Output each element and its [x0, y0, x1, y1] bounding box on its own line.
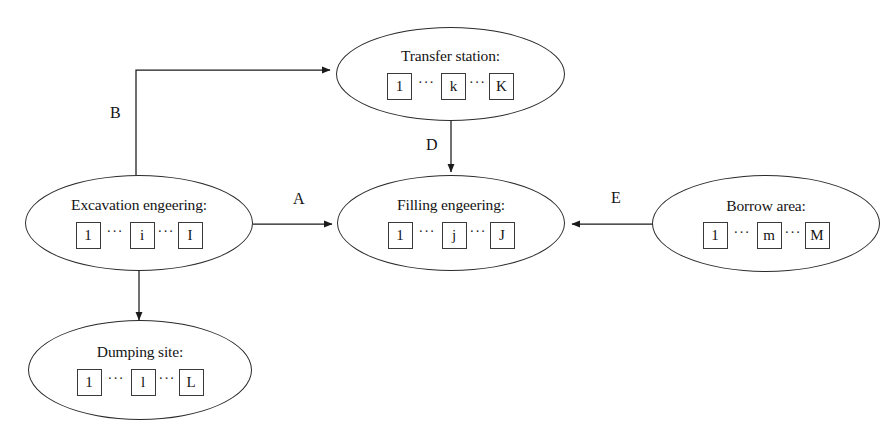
- index-box-borrow-m[interactable]: m: [757, 222, 782, 249]
- index-box-excavation-i[interactable]: i: [130, 222, 155, 249]
- index-ellipsis-transfer-right: ···: [466, 76, 489, 90]
- node-filling-engeering[interactable]: Filling engeering: 1 ··· j ··· J: [337, 175, 565, 271]
- edge-label-A: A: [293, 191, 305, 207]
- node-borrow-area[interactable]: Borrow area: 1 ··· m ··· M: [652, 175, 880, 272]
- index-ellipsis-dumping-right: ···: [156, 372, 179, 386]
- edge-label-B: B: [110, 105, 121, 121]
- index-box-dumping-L[interactable]: L: [179, 369, 204, 396]
- node-title-dumping-site: Dumping site:: [97, 344, 183, 360]
- index-row-transfer-station: 1 ··· k ··· K: [387, 73, 514, 100]
- node-title-excavation-engeering: Excavation engeering:: [71, 197, 207, 213]
- index-box-borrow-1[interactable]: 1: [703, 222, 728, 249]
- index-box-transfer-1[interactable]: 1: [387, 73, 412, 100]
- node-title-borrow-area: Borrow area:: [726, 198, 806, 214]
- index-box-transfer-K[interactable]: K: [489, 73, 514, 100]
- index-row-excavation-engeering: 1 ··· i ··· I: [76, 222, 203, 249]
- diagram-canvas: Transfer station: 1 ··· k ··· K Excavati…: [0, 0, 894, 443]
- edge-path-excavation-to-transfer: [136, 70, 330, 175]
- index-box-dumping-1[interactable]: 1: [77, 369, 102, 396]
- index-ellipsis-dumping-left: ···: [102, 372, 131, 386]
- edge-label-E: E: [611, 190, 621, 206]
- node-excavation-engeering[interactable]: Excavation engeering: 1 ··· i ··· I: [25, 175, 253, 271]
- node-transfer-station[interactable]: Transfer station: 1 ··· k ··· K: [336, 27, 565, 121]
- index-box-filling-J[interactable]: J: [490, 222, 515, 249]
- index-row-filling-engeering: 1 ··· j ··· J: [388, 222, 515, 249]
- index-ellipsis-excavation-right: ···: [155, 225, 178, 239]
- node-title-filling-engeering: Filling engeering:: [397, 197, 505, 213]
- index-ellipsis-transfer-left: ···: [412, 76, 441, 90]
- index-box-dumping-l[interactable]: l: [131, 369, 156, 396]
- edge-label-D: D: [426, 137, 438, 153]
- index-ellipsis-excavation-left: ···: [101, 225, 130, 239]
- index-box-excavation-I[interactable]: I: [178, 222, 203, 249]
- index-ellipsis-filling-left: ···: [413, 225, 442, 239]
- index-box-excavation-1[interactable]: 1: [76, 222, 101, 249]
- index-box-filling-1[interactable]: 1: [388, 222, 413, 249]
- index-ellipsis-borrow-left: ···: [728, 226, 757, 240]
- index-row-borrow-area: 1 ··· m ··· M: [703, 222, 830, 249]
- index-box-transfer-k[interactable]: k: [441, 73, 466, 100]
- node-title-transfer-station: Transfer station:: [401, 48, 500, 64]
- node-dumping-site[interactable]: Dumping site: 1 ··· l ··· L: [28, 320, 252, 420]
- index-ellipsis-borrow-right: ···: [782, 226, 805, 240]
- index-ellipsis-filling-right: ···: [467, 225, 490, 239]
- index-row-dumping-site: 1 ··· l ··· L: [77, 369, 204, 396]
- index-box-borrow-M[interactable]: M: [805, 222, 830, 249]
- index-box-filling-j[interactable]: j: [442, 222, 467, 249]
